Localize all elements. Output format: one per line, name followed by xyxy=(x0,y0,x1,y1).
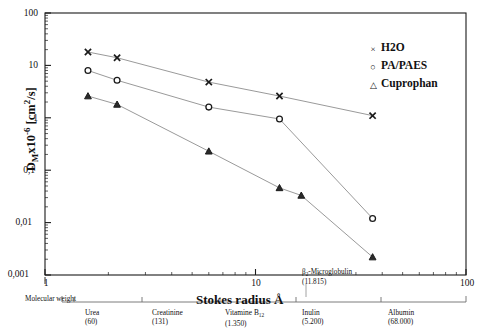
x-tick-label-1: 1 xyxy=(31,278,61,288)
data-point-cuprophan xyxy=(276,184,283,190)
y-tick-label-0p1: 0,1 xyxy=(1,165,35,175)
y-tick-label-1: 1 xyxy=(4,113,38,123)
legend-symbol-h2o: × xyxy=(367,44,379,54)
x-tick-label-10: 10 xyxy=(241,278,271,288)
y-tick-label-0p001: 0,001 xyxy=(0,269,29,279)
solute-label-creatinine: Creatinine (131) xyxy=(152,308,183,327)
solute-name-creatinine: Creatinine xyxy=(152,308,183,317)
data-point-cuprophan xyxy=(85,93,92,99)
solute-name-b2-microglobulin: β2-Microglobulin xyxy=(302,268,352,276)
solute-weight-inulin: (5.200) xyxy=(302,317,324,326)
legend-label-h2o[interactable]: H2O xyxy=(381,41,405,53)
y-tick-label-100: 100 xyxy=(4,8,38,18)
solute-name-inulin: Inulin xyxy=(302,308,320,317)
legend-symbol-cuprophan: △ xyxy=(367,80,379,90)
solute-weight-albumin: (68.000) xyxy=(388,317,413,326)
legend-symbol-pa-paes: ○ xyxy=(367,62,379,72)
solute-label-b2-microglobulin: β2-Microglobulin (11.815) xyxy=(302,268,352,287)
x-axis-title: Stokes radius Å xyxy=(196,292,283,308)
y-tick-label-0p01: 0,01 xyxy=(0,217,32,227)
solute-name-albumin: Albumin xyxy=(388,308,414,317)
data-point-cuprophan xyxy=(205,148,212,154)
data-point-pa-paes xyxy=(370,216,376,222)
solute-name-vitamine-b12: Vitamine B12 xyxy=(225,308,264,317)
legend-label-pa-paes[interactable]: PA/PAES xyxy=(381,59,427,71)
series-line-pa-paes xyxy=(88,70,373,218)
solute-name-urea: Urea xyxy=(85,308,99,317)
solute-label-inulin: Inulin (5.200) xyxy=(302,308,324,327)
data-point-pa-paes xyxy=(277,116,283,122)
figure-root: DMx10-6 [cm2/s] 100 10 1 0,1 0,01 0,001 … xyxy=(0,0,485,331)
molecular-weight-caption: Molecular weight xyxy=(25,295,76,303)
solute-weight-b2-microglobulin: (11.815) xyxy=(302,278,326,286)
x-tick-label-100: 100 xyxy=(452,278,482,288)
y-tick-label-10: 10 xyxy=(4,60,38,70)
solute-weight-vitamine-b12: (1.350) xyxy=(225,319,247,328)
solute-label-albumin: Albumin (68.000) xyxy=(388,308,414,327)
solute-weight-urea: (60) xyxy=(85,317,97,326)
solute-weight-creatinine: (131) xyxy=(152,317,168,326)
data-point-pa-paes xyxy=(85,68,91,74)
series-line-cuprophan xyxy=(88,96,373,257)
data-point-pa-paes xyxy=(206,104,212,110)
data-point-pa-paes xyxy=(114,77,120,83)
legend-label-cuprophan[interactable]: Cuprophan xyxy=(381,77,438,89)
solute-label-urea: Urea (60) xyxy=(85,308,99,327)
y-axis-title: DMx10-6 [cm2/s] xyxy=(22,54,41,204)
solute-label-vitamine-b12: Vitamine B12 (1.350) xyxy=(225,308,264,329)
y-axis-title-text: DMx10-6 [cm2/s] xyxy=(24,87,38,171)
